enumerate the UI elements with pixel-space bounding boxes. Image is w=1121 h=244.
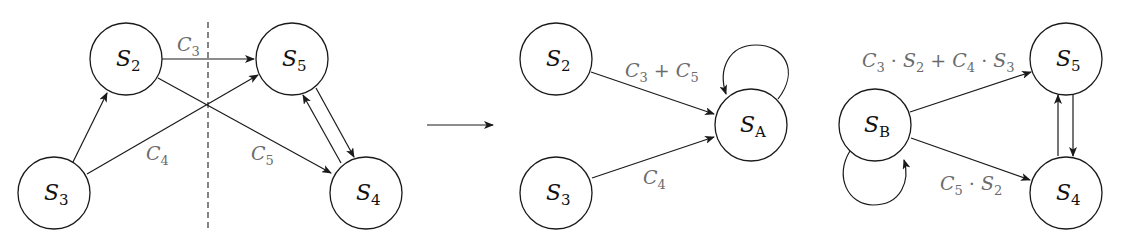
original-graph-panel: C3 C4 C5 S2 S3 S5 S4 [18, 22, 402, 232]
edge-label-c4: C4 [643, 166, 666, 192]
merged-a-panel: C3 + C5 C4 S2 S3 SA [520, 23, 788, 229]
node-s2: S2 [520, 23, 592, 95]
edge-label-c3-plus-c5: C3 + C5 [625, 59, 699, 85]
node-s2: S2 [90, 23, 162, 95]
edge-label-c5: C5 [251, 142, 274, 168]
edge-label-c5s2: C5 · S2 [940, 172, 1002, 198]
edge-s4-to-s5 [303, 95, 341, 163]
edge-label-c4: C4 [146, 142, 169, 168]
merged-b-panel: C3 · S2 + C4 · S3 C5 · S2 SB S5 S4 [839, 23, 1102, 229]
edge-sb-to-s5 [910, 72, 1031, 112]
node-s5: S5 [256, 23, 328, 95]
node-s3: S3 [520, 157, 592, 229]
node-s5: S5 [1030, 23, 1102, 95]
node-s3: S3 [18, 157, 90, 229]
state-diagram: C3 C4 C5 S2 S3 S5 S4 C3 + C5 C4 S2 [0, 0, 1121, 244]
edge-label-c3: C3 [177, 33, 200, 59]
edge-label-c3s2-plus-c4s3: C3 · S2 + C4 · S3 [862, 49, 1015, 75]
node-s4: S4 [330, 157, 402, 229]
edge-s5-to-s4 [316, 88, 354, 157]
node-sb: SB [839, 89, 911, 161]
node-s4: S4 [1030, 157, 1102, 229]
node-sa: SA [715, 89, 787, 161]
edge-s3-to-s2 [73, 93, 107, 162]
